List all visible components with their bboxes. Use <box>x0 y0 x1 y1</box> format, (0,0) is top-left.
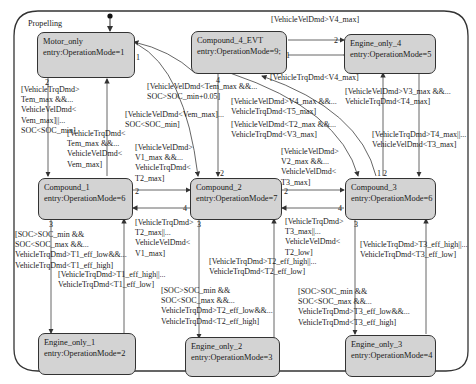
order-c2-to-c3: 2 <box>284 187 288 196</box>
guard-c1-to-c2[interactable]: [VehicleVelDmd> V1_max &&... VehicleTrqD… <box>135 143 193 184</box>
state-entry-action: entry:OperationMode=9; <box>197 46 286 57</box>
state-name: Engine_only_4 <box>350 38 435 49</box>
order-c1-to-c2: 2 <box>135 187 139 196</box>
guard-c4-to-e4[interactable]: [VehicleTrqDmd<V4_max] <box>270 73 359 83</box>
guard-e2-to-c2[interactable]: [VehicleTrqDmd>T2_eff_high||... VehicleT… <box>209 257 316 277</box>
state-entry-action: entry:OperationMode=3 <box>191 352 279 363</box>
state-compound-2[interactable]: Compound_2 entry:OperationMode=7 <box>190 178 282 220</box>
state-name: Compound_1 <box>44 182 132 193</box>
guard-c3-to-c4[interactable]: [VehicleVelDmd>V4_max &&... VehicleTrqDm… <box>231 97 337 117</box>
state-name: Compound_3 <box>351 182 435 193</box>
state-entry-action: entry:OperationMode=6 <box>351 193 435 204</box>
guard-motor-to-c2[interactable]: [VehicleVelDmd<Vem_max]... SOC<SOC_min] <box>125 110 224 130</box>
state-name: Engine_only_2 <box>191 341 279 352</box>
stateflow-chart: Propelling Motor_only entry:OperationMod… <box>0 0 476 384</box>
order-c1-to-e1: 3 <box>49 220 53 229</box>
order-c2-top: 2 <box>220 169 224 178</box>
guard-e3-to-c3[interactable]: [VehicleTrqDmd>T3_eff_high||... VehicleT… <box>360 240 467 260</box>
state-name: Compound_2 <box>196 182 281 193</box>
state-name: Compound_4_EVT <box>197 35 286 46</box>
order-c2-to-c1: 4 <box>183 204 187 213</box>
guard-c1-to-motor[interactable]: [VehicleTrqDmd< Tem_max &&... VehicleVel… <box>67 129 125 170</box>
guard-c2-to-c3[interactable]: [VehicleVelDmd> V2_max &&... VehicleVelD… <box>281 147 339 188</box>
state-entry-action: entry:OperationMode=6 <box>44 193 132 204</box>
guard-c1-to-e1[interactable]: [SOC>SOC_min && SOC<SOC_max &&... Vehicl… <box>15 230 127 271</box>
guard-c2-to-e2[interactable]: [SOC>SOC_min && SOC<SOC_max &&... Vehicl… <box>161 286 273 327</box>
guard-c3-to-e4[interactable]: [VehicleVelDmd>V3_max &&... VehicleTrqDm… <box>345 87 451 107</box>
state-entry-action: entry:OperationMode=2 <box>44 348 135 359</box>
state-name: Engine_only_1 <box>44 337 135 348</box>
default-transition-dot <box>107 13 112 18</box>
state-name: Motor_only <box>43 36 134 47</box>
order-c3-to-c2: 4 <box>338 204 342 213</box>
order-c4-to-e4: 1 <box>286 51 290 60</box>
state-engine-only-4[interactable]: Engine_only_4 entry:OperationMode=5 <box>344 34 436 74</box>
state-engine-only-1[interactable]: Engine_only_1 entry:OperationMode=2 <box>38 333 136 375</box>
guard-e4-to-c3[interactable]: [VehicleTrqDmd>T4_max||... VehicleVelDmd… <box>372 130 466 150</box>
guard-c3-to-e3[interactable]: [SOC>SOC_min && SOC<SOC_max &&... Vehicl… <box>298 287 410 328</box>
guard-c3-to-c2[interactable]: [VehicleTrqDmd> T3_max||... VehicleVelDm… <box>285 217 343 258</box>
order-e4-to-c4: 2 <box>334 36 338 45</box>
state-entry-action: entry:OperationMode=4 <box>351 350 435 361</box>
guard-e4-to-c4[interactable]: [VehicleVelDmd>V4_max] <box>271 15 359 25</box>
state-engine-only-3[interactable]: Engine_only_3 entry:OperationMode=4 <box>345 335 436 377</box>
guard-c2-to-c1[interactable]: [VehicleTrqDmd> T2_max||... VehicleVelDm… <box>135 218 193 259</box>
state-motor-only[interactable]: Motor_only entry:OperationMode=1 <box>37 32 135 78</box>
order-c3-bottom: 3 <box>354 220 358 229</box>
guard-e1-to-c1[interactable]: [VehicleTrqDmd>T1_eff_high||... VehicleT… <box>58 270 165 290</box>
superstate-label: Propelling <box>28 19 62 29</box>
state-engine-only-2[interactable]: Engine_only_2 entry:OperationMode=3 <box>185 337 280 377</box>
state-name: Engine_only_3 <box>351 339 435 350</box>
order-c4-to-motor: 1 <box>136 53 140 62</box>
state-entry-action: entry:OperationMode=7 <box>196 193 281 204</box>
order-c3-top-1: 1 <box>377 169 381 178</box>
order-c2-bottom: 3 <box>197 220 201 229</box>
state-compound-3[interactable]: Compound_3 entry:OperationMode=6 <box>345 178 436 220</box>
state-compound-4-evt[interactable]: Compound_4_EVT entry:OperationMode=9; <box>191 31 287 74</box>
state-entry-action: entry:OperationMode=1 <box>43 47 134 58</box>
state-compound-1[interactable]: Compound_1 entry:OperationMode=6 <box>38 178 133 220</box>
guard-c4-to-c3[interactable]: [VehicleVelDmd<T2_max &&... VehicleTrqDm… <box>231 120 336 140</box>
state-entry-action: entry:OperationMode=5 <box>350 49 435 60</box>
order-c3-top-2: 2 <box>383 169 387 178</box>
